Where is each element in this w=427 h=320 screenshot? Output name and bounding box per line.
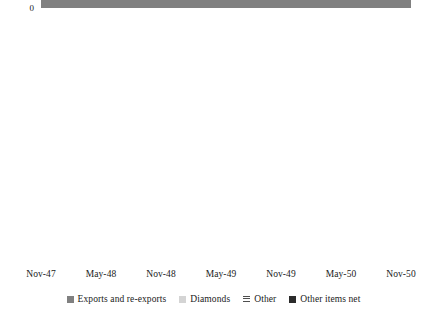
- legend-label: Exports and re-exports: [78, 294, 167, 304]
- legend-swatch-icon: [179, 296, 186, 303]
- legend-item: Other: [243, 294, 276, 304]
- legend-swatch-icon: [289, 296, 296, 303]
- legend-label: Diamonds: [190, 294, 230, 304]
- legend-swatch-icon: [243, 296, 250, 303]
- legend-item: Other items net: [289, 294, 360, 304]
- area-series-exports_and_re_exports: [41, 0, 411, 8]
- legend-label: Other items net: [300, 294, 360, 304]
- legend-item: Diamonds: [179, 294, 230, 304]
- plot-area: [0, 0, 427, 320]
- chart-legend: Exports and re-exportsDiamondsOtherOther…: [0, 294, 427, 304]
- stacked-area-chart: 0-20-40-60-80-100-120 Nov-47May-48Nov-48…: [0, 0, 427, 320]
- legend-swatch-icon: [67, 296, 74, 303]
- legend-label: Other: [254, 294, 276, 304]
- legend-item: Exports and re-exports: [67, 294, 167, 304]
